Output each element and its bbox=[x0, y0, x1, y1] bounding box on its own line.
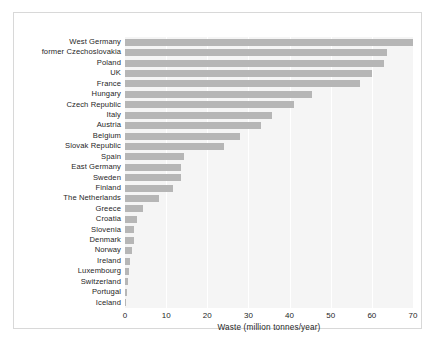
category-label: Italy bbox=[107, 110, 125, 120]
x-tick-label: 40 bbox=[285, 311, 294, 320]
category-label: East Germany bbox=[71, 162, 125, 172]
bar-row[interactable]: France bbox=[125, 79, 413, 89]
x-tick-label: 30 bbox=[244, 311, 253, 320]
bar-row[interactable]: Greece bbox=[125, 204, 413, 214]
bar[interactable] bbox=[125, 49, 387, 56]
x-tick-label: 50 bbox=[326, 311, 335, 320]
bar-row[interactable]: Austria bbox=[125, 120, 413, 130]
category-label: Luxembourg bbox=[78, 266, 125, 276]
bar[interactable] bbox=[125, 278, 128, 285]
category-label: Czech Republic bbox=[66, 100, 125, 110]
bar-row[interactable]: Iceland bbox=[125, 298, 413, 308]
bar-row[interactable]: Hungary bbox=[125, 89, 413, 99]
bar[interactable] bbox=[125, 268, 129, 275]
bar-row[interactable]: Luxembourg bbox=[125, 266, 413, 276]
bar-row[interactable]: East Germany bbox=[125, 162, 413, 172]
category-label: Slovak Republic bbox=[65, 141, 125, 151]
gridline bbox=[413, 37, 414, 308]
category-label: Switzerland bbox=[81, 277, 125, 287]
bar[interactable] bbox=[125, 112, 272, 119]
bar-row[interactable]: Croatia bbox=[125, 214, 413, 224]
bar[interactable] bbox=[125, 60, 384, 67]
bar[interactable] bbox=[125, 39, 413, 46]
category-label: Croatia bbox=[96, 214, 125, 224]
x-tick-label: 20 bbox=[203, 311, 212, 320]
x-axis-label: Waste (million tonnes/year) bbox=[125, 323, 413, 332]
category-label: Poland bbox=[97, 58, 125, 68]
category-label: Slovenia bbox=[91, 225, 125, 235]
bar[interactable] bbox=[125, 205, 143, 212]
category-label: Norway bbox=[95, 245, 125, 255]
category-label: Spain bbox=[101, 152, 125, 162]
category-label: The Netherlands bbox=[63, 193, 125, 203]
bar[interactable] bbox=[125, 153, 184, 160]
category-label: Iceland bbox=[96, 298, 125, 308]
plot-area: West Germanyformer CzechoslovakiaPolandU… bbox=[125, 37, 413, 308]
bar-row[interactable]: Spain bbox=[125, 152, 413, 162]
bar-row[interactable]: UK bbox=[125, 68, 413, 78]
bar-row[interactable]: Finland bbox=[125, 183, 413, 193]
bar-row[interactable]: Switzerland bbox=[125, 277, 413, 287]
bar[interactable] bbox=[125, 216, 137, 223]
bar-row[interactable]: Belgium bbox=[125, 131, 413, 141]
x-tick-label: 60 bbox=[367, 311, 376, 320]
bar[interactable] bbox=[125, 247, 132, 254]
category-label: Hungary bbox=[92, 89, 125, 99]
category-label: UK bbox=[110, 68, 125, 78]
category-label: Portugal bbox=[92, 287, 125, 297]
bar-row[interactable]: Portugal bbox=[125, 287, 413, 297]
bar-row[interactable]: Slovak Republic bbox=[125, 141, 413, 151]
bar-row[interactable]: Czech Republic bbox=[125, 100, 413, 110]
bar[interactable] bbox=[125, 289, 127, 296]
figure: West Germanyformer CzechoslovakiaPolandU… bbox=[0, 0, 434, 344]
bar[interactable] bbox=[125, 133, 240, 140]
category-label: Sweden bbox=[93, 173, 125, 183]
category-label: Belgium bbox=[93, 131, 125, 141]
bar-row[interactable]: Denmark bbox=[125, 235, 413, 245]
bar[interactable] bbox=[125, 101, 294, 108]
bar[interactable] bbox=[125, 70, 372, 77]
bar-row[interactable]: Slovenia bbox=[125, 225, 413, 235]
x-tick-label: 10 bbox=[162, 311, 171, 320]
bar[interactable] bbox=[125, 143, 224, 150]
bar[interactable] bbox=[125, 122, 261, 129]
category-label: Ireland bbox=[97, 256, 125, 266]
category-label: Finland bbox=[95, 183, 125, 193]
bar-row[interactable]: The Netherlands bbox=[125, 193, 413, 203]
bar[interactable] bbox=[125, 226, 134, 233]
bars-layer: West Germanyformer CzechoslovakiaPolandU… bbox=[125, 37, 413, 308]
bar[interactable] bbox=[125, 299, 126, 306]
bar[interactable] bbox=[125, 237, 134, 244]
x-tick-label: 70 bbox=[409, 311, 418, 320]
bar-row[interactable]: Poland bbox=[125, 58, 413, 68]
x-axis-ticks: 010203040506070 bbox=[125, 308, 413, 324]
bar[interactable] bbox=[125, 258, 130, 265]
category-label: West Germany bbox=[69, 37, 125, 47]
bar-row[interactable]: Norway bbox=[125, 245, 413, 255]
bar-row[interactable]: West Germany bbox=[125, 37, 413, 47]
bar-row[interactable]: Italy bbox=[125, 110, 413, 120]
bar[interactable] bbox=[125, 195, 159, 202]
category-label: Austria bbox=[97, 120, 125, 130]
category-label: Greece bbox=[95, 204, 125, 214]
bar[interactable] bbox=[125, 164, 181, 171]
bar[interactable] bbox=[125, 174, 181, 181]
category-label: former Czechoslovakia bbox=[42, 47, 125, 57]
bar[interactable] bbox=[125, 185, 173, 192]
chart-frame: West Germanyformer CzechoslovakiaPolandU… bbox=[13, 12, 422, 329]
bar-row[interactable]: Ireland bbox=[125, 256, 413, 266]
bar[interactable] bbox=[125, 91, 312, 98]
bar-row[interactable]: Sweden bbox=[125, 173, 413, 183]
category-label: Denmark bbox=[89, 235, 125, 245]
category-label: France bbox=[97, 79, 125, 89]
bar-row[interactable]: former Czechoslovakia bbox=[125, 47, 413, 57]
x-tick-label: 0 bbox=[123, 311, 127, 320]
bar[interactable] bbox=[125, 80, 360, 87]
